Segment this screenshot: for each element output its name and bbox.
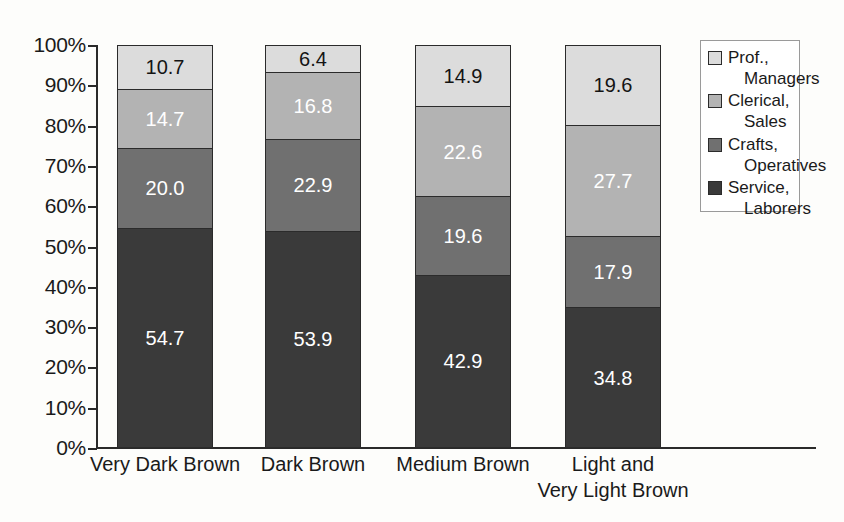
bar-segment[interactable]: 14.9: [416, 46, 510, 106]
bar-column[interactable]: 10.714.720.054.7: [117, 45, 213, 448]
bar-segment[interactable]: 20.0: [118, 148, 212, 228]
y-axis-tick-label: 30%: [0, 315, 86, 339]
bar-segment-value: 19.6: [594, 75, 633, 95]
bar-segment-value: 20.0: [146, 178, 185, 198]
legend-entry[interactable]: Clerical,Sales: [708, 91, 793, 132]
legend-entry[interactable]: Prof.,Managers: [708, 48, 793, 89]
bar-segment[interactable]: 42.9: [416, 275, 510, 447]
bar-segment[interactable]: 19.6: [416, 196, 510, 275]
legend-entry[interactable]: Service,Laborers: [708, 178, 793, 219]
bar-segment-value: 19.6: [444, 226, 483, 246]
bar-segment-value: 10.7: [146, 57, 185, 77]
legend-label-line2: Laborers: [728, 199, 811, 220]
y-axis-tick-label: 80%: [0, 114, 86, 138]
y-axis-tick-mark: [88, 287, 97, 289]
legend-entry[interactable]: Crafts,Operatives: [708, 135, 793, 176]
bar-segment[interactable]: 53.9: [266, 231, 360, 447]
y-axis-tick-label: 60%: [0, 194, 86, 218]
bar-column[interactable]: 19.627.717.934.8: [565, 45, 661, 448]
y-axis-tick-mark: [88, 206, 97, 208]
bar-column[interactable]: 14.922.619.642.9: [415, 45, 511, 448]
bar-segment[interactable]: 34.8: [566, 307, 660, 447]
bar-segment[interactable]: 17.9: [566, 236, 660, 308]
bar-segment-value: 34.8: [594, 368, 633, 388]
y-axis-tick-mark: [88, 367, 97, 369]
bar-stack: 6.416.822.953.9: [265, 45, 361, 448]
bar-segment-value: 42.9: [444, 351, 483, 371]
legend-label: Clerical,Sales: [728, 91, 789, 132]
legend-label-line2: Operatives: [728, 156, 826, 177]
y-axis-tick-label: 50%: [0, 235, 86, 259]
bar-segment[interactable]: 14.7: [118, 89, 212, 148]
legend-label-line1: Crafts,: [728, 135, 778, 154]
bar-stack: 10.714.720.054.7: [117, 45, 213, 448]
bar-segment-value: 22.9: [294, 175, 333, 195]
bar-segment[interactable]: 54.7: [118, 228, 212, 447]
y-axis-tick-mark: [88, 85, 97, 87]
y-axis: 100%90%80%70%60%50%40%30%20%10%0%: [0, 0, 86, 522]
y-axis-tick-label: 0%: [0, 436, 86, 460]
chart-legend: Prof.,ManagersClerical,SalesCrafts,Opera…: [700, 40, 800, 212]
bar-segment-value: 54.7: [146, 328, 185, 348]
bar-segment-value: 53.9: [294, 329, 333, 349]
bar-stack: 19.627.717.934.8: [565, 45, 661, 448]
bar-segment-value: 16.8: [294, 96, 333, 116]
legend-label-line1: Clerical,: [728, 91, 789, 110]
legend-label: Prof.,Managers: [728, 48, 820, 89]
y-axis-tick-label: 10%: [0, 396, 86, 420]
y-axis-tick-mark: [88, 327, 97, 329]
legend-swatch-icon: [708, 94, 722, 108]
y-axis-tick-label: 70%: [0, 154, 86, 178]
legend-label-line1: Prof.,: [728, 48, 769, 67]
bar-segment[interactable]: 16.8: [266, 72, 360, 139]
y-axis-tick-mark: [88, 448, 97, 450]
bar-segment-value: 22.6: [444, 142, 483, 162]
bar-column[interactable]: 6.416.822.953.9: [265, 45, 361, 448]
bar-segment[interactable]: 22.6: [416, 106, 510, 197]
legend-label-line1: Service,: [728, 178, 789, 197]
bar-segment[interactable]: 10.7: [118, 46, 212, 89]
x-axis: Very Dark BrownDark BrownMedium BrownLig…: [96, 452, 816, 522]
bar-segment-value: 14.9: [444, 66, 483, 86]
bar-segment[interactable]: 27.7: [566, 125, 660, 236]
legend-label-line2: Sales: [728, 112, 789, 133]
y-axis-tick-label: 100%: [0, 33, 86, 57]
y-axis-tick-label: 90%: [0, 73, 86, 97]
x-axis-category-label: Light and Very Light Brown: [523, 452, 703, 503]
y-axis-tick-mark: [88, 247, 97, 249]
bar-segment[interactable]: 19.6: [566, 46, 660, 125]
legend-swatch-icon: [708, 138, 722, 152]
y-axis-tick-mark: [88, 126, 97, 128]
y-axis-tick-mark: [88, 166, 97, 168]
bar-segment-value: 27.7: [594, 171, 633, 191]
legend-label: Service,Laborers: [728, 178, 811, 219]
stacked-bar-chart: 100%90%80%70%60%50%40%30%20%10%0% 10.714…: [0, 0, 844, 522]
bar-segment-value: 14.7: [146, 109, 185, 129]
legend-label: Crafts,Operatives: [728, 135, 826, 176]
legend-swatch-icon: [708, 181, 722, 195]
bar-segment[interactable]: 22.9: [266, 139, 360, 231]
legend-label-line2: Managers: [728, 69, 820, 90]
y-axis-tick-mark: [88, 45, 97, 47]
bar-segment-value: 6.4: [299, 49, 327, 69]
bar-segment-value: 17.9: [594, 262, 633, 282]
legend-swatch-icon: [708, 51, 722, 65]
bar-stack: 14.922.619.642.9: [415, 45, 511, 448]
bar-segment[interactable]: 6.4: [266, 46, 360, 72]
y-axis-tick-label: 20%: [0, 355, 86, 379]
y-axis-tick-mark: [88, 408, 97, 410]
y-axis-tick-label: 40%: [0, 275, 86, 299]
